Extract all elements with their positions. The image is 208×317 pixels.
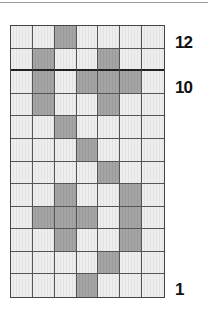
grid-cell-r8-c6 xyxy=(120,116,142,139)
grid-cell-r10-c2 xyxy=(33,71,55,94)
grid-cell-r9-c6 xyxy=(120,94,142,117)
grid-cell-r1-c2 xyxy=(33,274,55,297)
grid-cell-r5-c6 xyxy=(120,184,142,207)
grid-cell-r11-c3 xyxy=(55,49,77,72)
grid-cell-r9-c4 xyxy=(77,94,99,117)
grid-cell-r2-c2 xyxy=(33,252,55,275)
grid-cell-r5-c3 xyxy=(55,184,77,207)
grid-cell-r8-c7 xyxy=(142,116,164,139)
grid-cell-r12-c2 xyxy=(33,26,55,49)
grid-cell-r12-c4 xyxy=(77,26,99,49)
grid-cell-r3-c1 xyxy=(11,229,33,252)
grid-cell-r4-c3 xyxy=(55,207,77,230)
grid-cell-r5-c4 xyxy=(77,184,99,207)
grid-cell-r8-c2 xyxy=(33,116,55,139)
grid-cell-r2-c6 xyxy=(120,252,142,275)
grid-cell-r12-c6 xyxy=(120,26,142,49)
grid-cell-r4-c6 xyxy=(120,207,142,230)
grid-cell-r2-c1 xyxy=(11,252,33,275)
grid-cell-r11-c1 xyxy=(11,49,33,72)
grid-cell-r7-c5 xyxy=(98,139,120,162)
grid-cell-r10-c4 xyxy=(77,71,99,94)
grid-cell-r6-c2 xyxy=(33,162,55,185)
grid-cell-r8-c5 xyxy=(98,116,120,139)
grid-cell-r3-c6 xyxy=(120,229,142,252)
grid-cell-r9-c2 xyxy=(33,94,55,117)
grid-cell-r5-c7 xyxy=(142,184,164,207)
grid-cell-r1-c1 xyxy=(11,274,33,297)
grid-cell-r10-c1 xyxy=(11,71,33,94)
grid-cell-r10-c7 xyxy=(142,71,164,94)
grid-cell-r7-c2 xyxy=(33,139,55,162)
grid-cell-r4-c5 xyxy=(98,207,120,230)
top-rule xyxy=(0,2,208,3)
grid-cell-r7-c4 xyxy=(77,139,99,162)
grid-cell-r3-c5 xyxy=(98,229,120,252)
grid-cell-r4-c2 xyxy=(33,207,55,230)
grid-cell-r9-c1 xyxy=(11,94,33,117)
grid-cell-r3-c3 xyxy=(55,229,77,252)
grid-cell-r5-c5 xyxy=(98,184,120,207)
grid-cell-r12-c3 xyxy=(55,26,77,49)
grid-cell-r10-c5 xyxy=(98,71,120,94)
chart-grid xyxy=(10,25,165,298)
grid-cell-r7-c7 xyxy=(142,139,164,162)
grid-cell-r5-c2 xyxy=(33,184,55,207)
grid-cell-r9-c7 xyxy=(142,94,164,117)
grid-cell-r11-c6 xyxy=(120,49,142,72)
grid-cell-r10-c6 xyxy=(120,71,142,94)
grid-cell-r4-c7 xyxy=(142,207,164,230)
grid-cell-r9-c3 xyxy=(55,94,77,117)
row-label-10: 10 xyxy=(175,78,192,98)
grid-cell-r7-c1 xyxy=(11,139,33,162)
grid-cell-r6-c1 xyxy=(11,162,33,185)
row-label-12: 12 xyxy=(175,33,192,53)
grid-cell-r3-c4 xyxy=(77,229,99,252)
grid-cell-r4-c1 xyxy=(11,207,33,230)
grid-cell-r12-c1 xyxy=(11,26,33,49)
grid-cell-r11-c2 xyxy=(33,49,55,72)
grid-cell-r12-c7 xyxy=(142,26,164,49)
grid-cell-r6-c5 xyxy=(98,162,120,185)
grid-cell-r1-c7 xyxy=(142,274,164,297)
grid-cell-r2-c5 xyxy=(98,252,120,275)
grid-cell-r4-c4 xyxy=(77,207,99,230)
grid-cell-r8-c3 xyxy=(55,116,77,139)
grid-cell-r2-c7 xyxy=(142,252,164,275)
grid-cell-r11-c4 xyxy=(77,49,99,72)
grid-cell-r6-c3 xyxy=(55,162,77,185)
grid-cell-r2-c3 xyxy=(55,252,77,275)
grid-cell-r1-c6 xyxy=(120,274,142,297)
grid-cell-r12-c5 xyxy=(98,26,120,49)
grid-cell-r6-c6 xyxy=(120,162,142,185)
grid-cell-r8-c1 xyxy=(11,116,33,139)
grid-cell-r9-c5 xyxy=(98,94,120,117)
grid-cell-r7-c3 xyxy=(55,139,77,162)
grid-cell-r10-c3 xyxy=(55,71,77,94)
grid-cell-r8-c4 xyxy=(77,116,99,139)
grid-cell-r1-c3 xyxy=(55,274,77,297)
grid-cell-r11-c5 xyxy=(98,49,120,72)
grid-cell-r6-c7 xyxy=(142,162,164,185)
grid-cell-r2-c4 xyxy=(77,252,99,275)
grid-cell-r3-c2 xyxy=(33,229,55,252)
grid-cell-r5-c1 xyxy=(11,184,33,207)
row-label-1: 1 xyxy=(175,280,183,300)
grid-cell-r11-c7 xyxy=(142,49,164,72)
grid-cell-r7-c6 xyxy=(120,139,142,162)
grid-cell-r1-c5 xyxy=(98,274,120,297)
grid-cell-r1-c4 xyxy=(77,274,99,297)
grid-cell-r6-c4 xyxy=(77,162,99,185)
grid-cell-r3-c7 xyxy=(142,229,164,252)
